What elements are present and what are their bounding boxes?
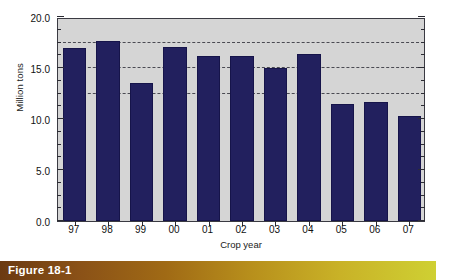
figure-container: Million tons 0.05.010.015.020.0 97989900… bbox=[0, 0, 452, 280]
y-axis-minor-tick-mark bbox=[57, 144, 61, 145]
y-axis-minor-tick-mark bbox=[57, 42, 61, 43]
y-axis-tick-label: 0.0 bbox=[8, 217, 50, 228]
y-axis-minor-tick-mark bbox=[421, 131, 425, 132]
figure-caption-bar: Figure 18-1 bbox=[0, 261, 436, 280]
bar bbox=[230, 56, 253, 221]
y-axis-minor-tick-mark bbox=[57, 80, 61, 81]
y-axis-minor-tick-mark bbox=[57, 195, 61, 196]
y-axis-minor-tick-mark bbox=[421, 105, 425, 106]
bars-layer bbox=[58, 19, 424, 221]
bar bbox=[130, 83, 153, 221]
bar bbox=[364, 102, 387, 221]
y-axis-tick-label: 5.0 bbox=[8, 166, 50, 177]
y-axis-tick-mark bbox=[418, 169, 425, 170]
bar bbox=[63, 48, 86, 221]
bar bbox=[264, 68, 287, 221]
y-axis-tick-mark bbox=[418, 67, 425, 68]
x-axis-tick-label: 07 bbox=[388, 224, 428, 235]
bar bbox=[331, 104, 354, 221]
plot-area bbox=[57, 18, 425, 222]
y-axis-minor-tick-mark bbox=[421, 156, 425, 157]
y-axis-tick-mark bbox=[57, 67, 64, 68]
y-axis-minor-tick-mark bbox=[57, 93, 61, 94]
y-axis-minor-tick-mark bbox=[421, 207, 425, 208]
y-axis-minor-tick-mark bbox=[57, 156, 61, 157]
figure-caption-label: Figure 18-1 bbox=[8, 264, 72, 276]
y-axis-minor-tick-mark bbox=[421, 80, 425, 81]
y-axis-tick-label: 15.0 bbox=[8, 64, 50, 75]
y-axis-minor-tick-mark bbox=[421, 182, 425, 183]
y-axis-minor-tick-mark bbox=[421, 144, 425, 145]
bar-chart: Million tons 0.05.010.015.020.0 97989900… bbox=[0, 0, 452, 248]
y-axis-minor-tick-mark bbox=[421, 93, 425, 94]
bar bbox=[163, 47, 186, 221]
y-axis-minor-tick-mark bbox=[421, 195, 425, 196]
y-axis-minor-tick-mark bbox=[57, 54, 61, 55]
x-axis-tick-labels: 9798990001020304050607 bbox=[57, 224, 425, 240]
bar bbox=[197, 56, 220, 221]
y-axis-tick-mark bbox=[57, 220, 64, 221]
y-axis-tick-labels: 0.05.010.015.020.0 bbox=[8, 18, 50, 222]
y-axis-tick-label: 20.0 bbox=[8, 13, 50, 24]
y-axis-tick-label: 10.0 bbox=[8, 115, 50, 126]
y-axis-minor-tick-mark bbox=[57, 207, 61, 208]
y-axis-minor-tick-mark bbox=[421, 54, 425, 55]
y-axis-minor-tick-mark bbox=[57, 105, 61, 106]
y-axis-minor-tick-mark bbox=[421, 42, 425, 43]
y-axis-tick-mark bbox=[57, 16, 64, 17]
bar bbox=[96, 41, 119, 221]
y-axis-tick-mark bbox=[57, 118, 64, 119]
y-axis-tick-mark bbox=[418, 220, 425, 221]
y-axis-minor-tick-mark bbox=[57, 131, 61, 132]
y-axis-minor-tick-mark bbox=[421, 29, 425, 30]
x-axis-title: Crop year bbox=[57, 239, 425, 250]
y-axis-tick-mark bbox=[57, 169, 64, 170]
y-axis-minor-tick-mark bbox=[57, 182, 61, 183]
bar bbox=[297, 54, 320, 221]
y-axis-minor-tick-mark bbox=[57, 29, 61, 30]
y-axis-tick-mark bbox=[418, 118, 425, 119]
y-axis-tick-mark bbox=[418, 16, 425, 17]
